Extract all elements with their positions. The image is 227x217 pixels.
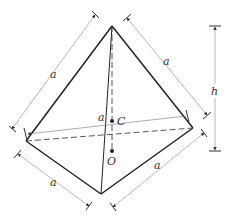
edge-apex-right bbox=[112, 26, 193, 128]
dim-lower-right: a bbox=[110, 129, 207, 211]
label-edge-lower-right: a bbox=[154, 159, 161, 172]
edge-left-bottom bbox=[26, 141, 101, 194]
label-height: h bbox=[211, 85, 218, 98]
dim-height: h bbox=[209, 26, 221, 151]
edge-left-right-hidden bbox=[26, 128, 193, 141]
hidden-edges bbox=[26, 26, 193, 151]
point-O: O bbox=[107, 149, 116, 168]
visible-edges bbox=[26, 26, 193, 194]
label-edge-upper-left: a bbox=[50, 68, 57, 81]
dim-upper-right: a bbox=[123, 14, 211, 119]
label-edge-upper-right: a bbox=[163, 55, 170, 68]
label-O: O bbox=[107, 155, 116, 168]
label-edge-lower-left: a bbox=[50, 176, 57, 189]
dim-upper-left: a bbox=[9, 11, 99, 132]
label-C: C bbox=[117, 115, 126, 128]
label-edge-middle: a bbox=[98, 111, 105, 124]
tetrahedron-diagram: a a a a a h C O bbox=[0, 0, 227, 217]
edge-apex-bottom bbox=[101, 26, 112, 194]
